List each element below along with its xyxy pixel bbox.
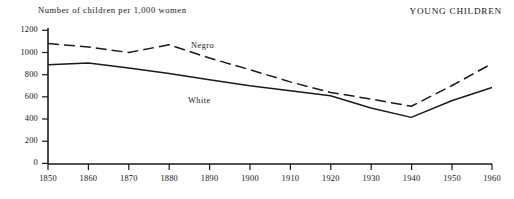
x-tick-label: 1940 xyxy=(392,174,432,183)
y-tick-label: 400 xyxy=(6,114,38,123)
x-axis-ticks xyxy=(48,164,492,170)
x-tick-label: 1860 xyxy=(68,174,108,183)
x-tick-label: 1880 xyxy=(149,174,189,183)
series-label-negro: Negro xyxy=(191,41,214,50)
series-label-white: White xyxy=(188,96,211,105)
chart-plot-area xyxy=(0,0,514,199)
x-tick-label: 1960 xyxy=(472,174,512,183)
line-chart-svg xyxy=(0,0,514,199)
x-tick-label: 1920 xyxy=(311,174,351,183)
y-axis-ticks xyxy=(42,30,48,163)
x-tick-label: 1900 xyxy=(230,174,270,183)
x-tick-label: 1950 xyxy=(432,174,472,183)
y-tick-label: 200 xyxy=(6,136,38,145)
y-tick-label: 0 xyxy=(6,158,38,167)
x-tick-label: 1870 xyxy=(109,174,149,183)
chart-page: Number of children per 1,000 women YOUNG… xyxy=(0,0,514,199)
y-tick-label: 800 xyxy=(6,70,38,79)
y-tick-label: 1200 xyxy=(6,25,38,34)
x-tick-label: 1930 xyxy=(351,174,391,183)
x-tick-label: 1850 xyxy=(28,174,68,183)
series-line-negro xyxy=(48,44,492,107)
y-tick-label: 1000 xyxy=(6,48,38,57)
chart-axes xyxy=(48,28,492,164)
series-line-white xyxy=(48,63,492,117)
y-tick-label: 600 xyxy=(6,92,38,101)
x-tick-label: 1910 xyxy=(270,174,310,183)
x-tick-label: 1890 xyxy=(190,174,230,183)
